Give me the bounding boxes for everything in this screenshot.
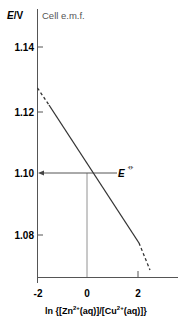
standard-emf-label: E (118, 168, 125, 179)
line-extrapolation-left (38, 88, 50, 105)
y-axis-label: E/V (7, 10, 23, 21)
standard-state-symbol: ⦵ (127, 162, 135, 171)
svg-text:-2: -2 (34, 288, 43, 299)
x-axis-label: ln {[Zn2+(aq)]/[Cu2+(aq)]} (45, 305, 147, 316)
svg-text:1.10: 1.10 (15, 168, 35, 179)
svg-text:1.14: 1.14 (15, 42, 35, 53)
arrow-head-icon (38, 171, 44, 176)
svg-text:1.08: 1.08 (15, 230, 35, 241)
line-extrapolation-right (139, 243, 150, 270)
y-ticks: 1.14 1.12 1.10 1.08 (15, 42, 43, 241)
svg-text:1.12: 1.12 (15, 107, 35, 118)
emf-line (49, 105, 139, 243)
svg-text:2: 2 (135, 288, 141, 299)
emf-chart: E/V Cell e.m.f. 1.14 1.12 1.10 1.08 -2 0… (0, 0, 186, 320)
chart-subtitle: Cell e.m.f. (42, 10, 85, 21)
svg-text:0: 0 (84, 288, 90, 299)
